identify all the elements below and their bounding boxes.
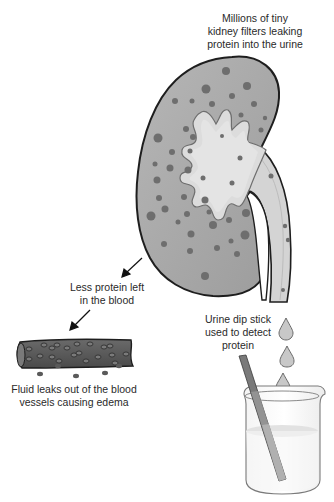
label-line: Less protein left [62, 281, 152, 294]
kidney-filters-label: Millions of tiny kidney filters leaking … [180, 12, 330, 51]
label-line: used to detect [200, 326, 276, 339]
label-line: vessels causing edema [4, 396, 144, 409]
label-line: protein [200, 339, 276, 352]
less-protein-label: Less protein left in the blood [62, 281, 152, 307]
label-line: Fluid leaks out of the blood [4, 383, 144, 396]
label-line: in the blood [62, 294, 152, 307]
label-line: Urine dip stick [200, 313, 276, 326]
arrow-icon [122, 258, 142, 277]
blood-vessel-icon [17, 339, 133, 378]
diagram-illustration [0, 0, 334, 502]
urine-drop-icon [276, 318, 294, 395]
fluid-leaks-label: Fluid leaks out of the blood vessels cau… [4, 383, 144, 409]
label-line: Millions of tiny [180, 12, 330, 25]
label-line: kidney filters leaking [180, 25, 330, 38]
arrow-icon [70, 310, 90, 330]
dip-stick-label: Urine dip stick used to detect protein [200, 313, 276, 352]
label-line: protein into the urine [180, 38, 330, 51]
